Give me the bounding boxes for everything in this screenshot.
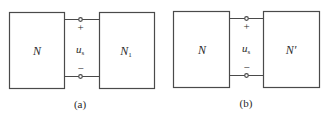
- minus-sign: −: [77, 62, 83, 74]
- right-network-label: N′: [285, 43, 297, 57]
- minus-sign: −: [243, 61, 249, 73]
- left-network-label: N: [197, 43, 207, 57]
- port-voltage-label: us: [76, 43, 85, 57]
- plus-sign: +: [77, 21, 83, 33]
- left-network-label: N: [32, 44, 42, 58]
- port-voltage-label: us: [242, 42, 251, 56]
- circuit-diagram: + − N N1 us (a) + − N N′ us (b): [0, 0, 327, 119]
- right-network-label: N1: [119, 44, 132, 59]
- bottom-terminal-icon: [79, 75, 83, 79]
- bottom-terminal-icon: [245, 74, 249, 78]
- caption-a: (a): [74, 98, 87, 111]
- plus-sign: +: [243, 20, 249, 32]
- caption-b: (b): [240, 97, 253, 110]
